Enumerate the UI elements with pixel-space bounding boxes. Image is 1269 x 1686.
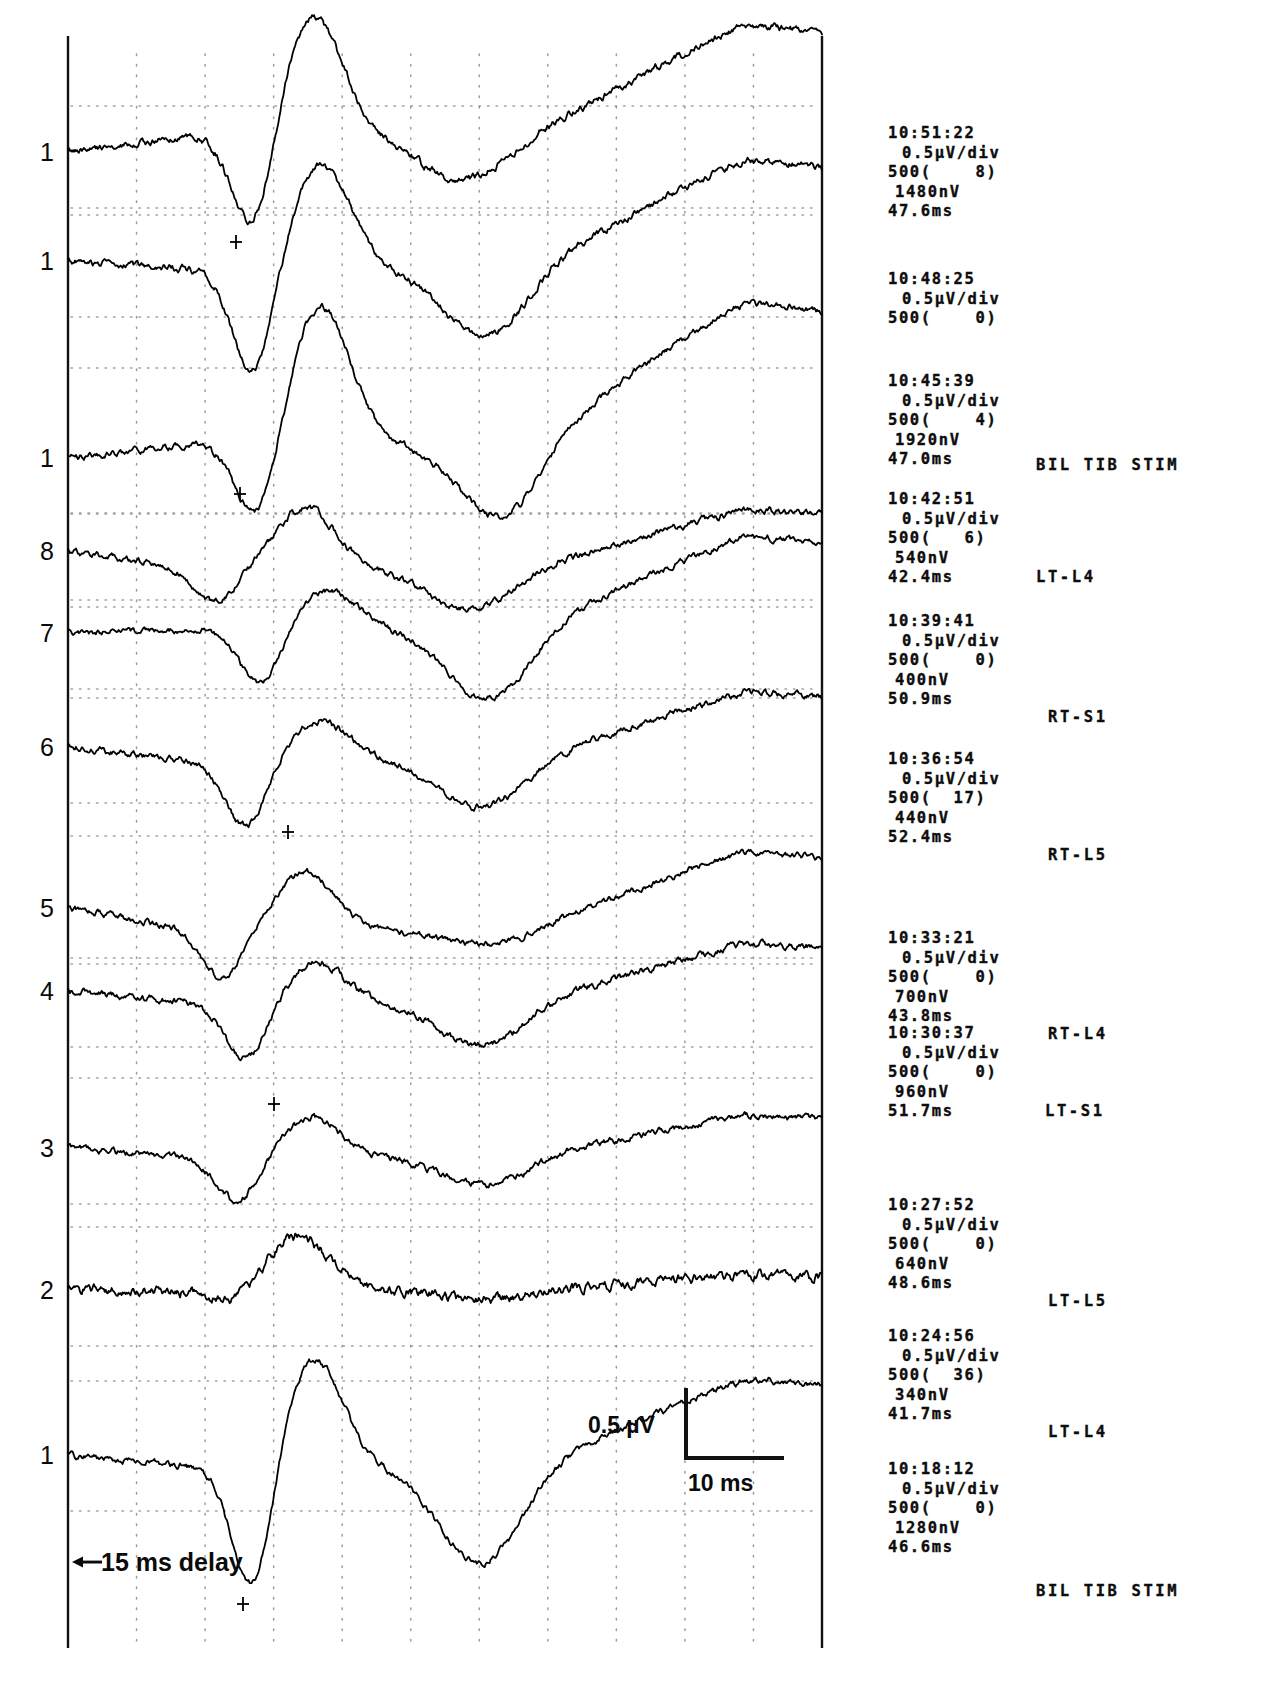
left-arrow-glyph: [72, 1555, 102, 1569]
channel-number-label: 6: [40, 735, 54, 760]
annotation-stimulation-site: LT-L4: [1048, 1423, 1108, 1441]
channel-number-label: 7: [40, 621, 54, 646]
annotation-sweep-count: 500( 0): [888, 1063, 1128, 1083]
annotation-sensitivity: 0.5µV/div: [888, 392, 1128, 412]
calibration-marker: 0.5 µV 10 ms: [588, 1380, 788, 1510]
annotation-timestamp: 10:24:56: [888, 1327, 1128, 1347]
annotation-sensitivity: 0.5µV/div: [888, 770, 1128, 790]
annotation-text-group: 10:33:210.5µV/div500( 0)700nV43.8ms: [888, 929, 1128, 1027]
channel-number-label: 8: [40, 539, 54, 564]
annotation-timestamp: 10:51:22: [888, 124, 1128, 144]
annotation-sweep-count: 500( 6): [888, 529, 1128, 549]
waveform-trace: [68, 1112, 822, 1203]
annotation-amplitude: 540nV: [888, 549, 1128, 569]
trace-layer: [68, 15, 822, 1611]
annotation-timestamp: 10:45:39: [888, 372, 1128, 392]
annotation-amplitude: 700nV: [888, 988, 1128, 1008]
annotation-sensitivity: 0.5µV/div: [888, 1347, 1128, 1367]
channel-number-label: 1: [40, 140, 54, 165]
latency-cursor-marker: [268, 1097, 280, 1111]
annotation-stimulation-site: RT-L5: [1048, 846, 1108, 864]
channel-number-label: 4: [40, 979, 54, 1004]
waveform-trace: [68, 1234, 822, 1304]
annotation-amplitude: 1280nV: [888, 1519, 1128, 1539]
annotation-sensitivity: 0.5µV/div: [888, 144, 1128, 164]
annotation-amplitude: 440nV: [888, 809, 1128, 829]
annotation-sweep-count: 500( 4): [888, 411, 1128, 431]
delay-annotation: 15 ms delay: [72, 1546, 243, 1577]
annotation-sweep-count: 500( 0): [888, 309, 1128, 329]
annotation-timestamp: 10:36:54: [888, 750, 1128, 770]
channel-number-label: 2: [40, 1278, 54, 1303]
left-arrow-icon: [72, 1546, 102, 1575]
annotation-timestamp: 10:33:21: [888, 929, 1128, 949]
annotation-amplitude: 1480nV: [888, 183, 1128, 203]
annotation-text-group: 10:18:120.5µV/div500( 0)1280nV46.6ms: [888, 1460, 1128, 1558]
annotation-latency: 52.4ms: [888, 828, 1128, 848]
annotation-stimulation-site: BIL TIB STIM: [1036, 456, 1179, 474]
annotation-sensitivity: 0.5µV/div: [888, 632, 1128, 652]
annotation-text-group: 10:36:540.5µV/div500( 17)440nV52.4ms: [888, 750, 1128, 848]
waveform-trace: [68, 158, 822, 372]
annotation-amplitude: 640nV: [888, 1255, 1128, 1275]
annotation-timestamp: 10:42:51: [888, 490, 1128, 510]
annotation-stimulation-site: LT-L4: [1036, 568, 1096, 586]
annotation-latency: 47.6ms: [888, 202, 1128, 222]
annotation-sweep-count: 500( 0): [888, 968, 1128, 988]
annotation-timestamp: 10:18:12: [888, 1460, 1128, 1480]
annotation-sweep-count: 500( 8): [888, 163, 1128, 183]
annotation-sweep-count: 500( 17): [888, 789, 1128, 809]
channel-number-label: 1: [40, 249, 54, 274]
annotation-amplitude: 960nV: [888, 1083, 1128, 1103]
waveform-trace: [68, 534, 822, 700]
waveform-trace: [68, 505, 822, 611]
annotation-timestamp: 10:48:25: [888, 270, 1128, 290]
annotation-sweep-count: 500( 36): [888, 1366, 1128, 1386]
annotation-latency: 50.9ms: [888, 690, 1128, 710]
latency-cursor-marker: [237, 1597, 249, 1611]
annotation-text-group: 10:24:560.5µV/div500( 36)340nV41.7ms: [888, 1327, 1128, 1425]
annotation-timestamp: 10:27:52: [888, 1196, 1128, 1216]
annotation-text-group: 10:39:410.5µV/div500( 0)400nV50.9ms: [888, 612, 1128, 710]
calibration-amplitude-label: 0.5 µV: [588, 1412, 655, 1439]
annotation-text-group: 10:51:220.5µV/div500( 8)1480nV47.6ms: [888, 124, 1128, 222]
annotation-amplitude: 400nV: [888, 671, 1128, 691]
annotation-text-group: 10:48:250.5µV/div500( 0): [888, 270, 1128, 329]
annotation-text-group: 10:45:390.5µV/div500( 4)1920nV47.0ms: [888, 372, 1128, 470]
channel-number-label: 5: [40, 896, 54, 921]
channel-number-label: 1: [40, 446, 54, 471]
annotation-latency: 48.6ms: [888, 1274, 1128, 1294]
waveform-trace: [68, 300, 822, 519]
latency-cursor-marker: [230, 235, 242, 249]
ssep-recording-page: 11187654321 15 ms delay 0.5 µV 10 ms 10:…: [0, 0, 1269, 1686]
annotation-sensitivity: 0.5µV/div: [888, 949, 1128, 969]
annotation-amplitude: 340nV: [888, 1386, 1128, 1406]
calibration-time-label: 10 ms: [688, 1470, 753, 1497]
annotation-sweep-count: 500( 0): [888, 1235, 1128, 1255]
annotation-stimulation-site: BIL TIB STIM: [1036, 1582, 1179, 1600]
annotation-amplitude: 1920nV: [888, 431, 1128, 451]
channel-number-gutter: 11187654321: [0, 0, 68, 1686]
delay-label-text: 15 ms delay: [101, 1548, 243, 1576]
annotation-sweep-count: 500( 0): [888, 651, 1128, 671]
annotation-timestamp: 10:39:41: [888, 612, 1128, 632]
calibration-bar: [684, 1388, 784, 1460]
waveform-trace: [68, 850, 822, 980]
annotation-sweep-count: 500( 0): [888, 1499, 1128, 1519]
annotation-timestamp: 10:30:37: [888, 1024, 1128, 1044]
annotation-column: 10:51:220.5µV/div500( 8)1480nV47.6ms10:4…: [860, 0, 1269, 1686]
annotation-sensitivity: 0.5µV/div: [888, 510, 1128, 530]
latency-cursor-marker: [282, 825, 294, 839]
annotation-text-group: 10:27:520.5µV/div500( 0)640nV48.6ms: [888, 1196, 1128, 1294]
waveform-trace: [68, 15, 822, 224]
channel-number-label: 1: [40, 1443, 54, 1468]
annotation-sensitivity: 0.5µV/div: [888, 1216, 1128, 1236]
annotation-sensitivity: 0.5µV/div: [888, 290, 1128, 310]
annotation-stimulation-site: LT-S1: [1045, 1102, 1105, 1120]
annotation-stimulation-site: RT-S1: [1048, 708, 1108, 726]
channel-number-label: 3: [40, 1136, 54, 1161]
annotation-sensitivity: 0.5µV/div: [888, 1044, 1128, 1064]
annotation-latency: 41.7ms: [888, 1405, 1128, 1425]
annotation-latency: 46.6ms: [888, 1538, 1128, 1558]
annotation-sensitivity: 0.5µV/div: [888, 1480, 1128, 1500]
